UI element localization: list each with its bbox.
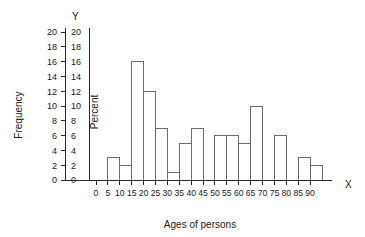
histogram-bar bbox=[191, 128, 203, 180]
histogram-bar bbox=[132, 62, 144, 180]
frequency-tick-label: 0 bbox=[52, 175, 57, 185]
frequency-tick-label: 4 bbox=[52, 146, 57, 156]
x-tick-label: 60 bbox=[234, 188, 244, 198]
x-tick-label: 90 bbox=[305, 188, 315, 198]
frequency-tick-label: 2 bbox=[52, 161, 57, 171]
percent-axis-title: Percent bbox=[89, 95, 100, 130]
y-axis-letter: Y bbox=[72, 11, 79, 22]
histogram-bar bbox=[120, 165, 132, 180]
frequency-tick-label: 6 bbox=[52, 131, 57, 141]
percent-tick-label: 16 bbox=[71, 57, 81, 67]
histogram-bar bbox=[227, 136, 239, 180]
histogram-bar bbox=[167, 173, 179, 180]
x-tick-label: 80 bbox=[282, 188, 292, 198]
x-tick-label: 15 bbox=[127, 188, 137, 198]
percent-tick-label: 20 bbox=[71, 27, 81, 37]
frequency-tick-label: 18 bbox=[47, 42, 57, 52]
x-tick-label: 55 bbox=[222, 188, 232, 198]
x-tick-label: 85 bbox=[293, 188, 303, 198]
x-tick-label: 10 bbox=[115, 188, 125, 198]
chart-canvas: 02468101214161820 02468101214161820 0510… bbox=[0, 0, 365, 237]
frequency-tick-label: 12 bbox=[47, 87, 57, 97]
histogram-bars bbox=[108, 62, 322, 180]
frequency-tick-label: 14 bbox=[47, 72, 57, 82]
histogram-bar bbox=[108, 158, 120, 180]
histogram-bar bbox=[251, 106, 263, 180]
x-tick-label: 40 bbox=[186, 188, 196, 198]
x-tick-label: 75 bbox=[270, 188, 280, 198]
x-tick-label: 50 bbox=[210, 188, 220, 198]
y-axis-title: Frequency bbox=[13, 91, 24, 138]
percent-tick-label: 10 bbox=[71, 101, 81, 111]
histogram-bar bbox=[144, 91, 156, 180]
frequency-tick-label: 16 bbox=[47, 57, 57, 67]
x-axis-title: Ages of persons bbox=[164, 219, 236, 230]
x-tick-label: 70 bbox=[258, 188, 268, 198]
x-axis bbox=[65, 180, 332, 185]
percent-axis-tick-labels: 02468101214161820 bbox=[71, 27, 81, 185]
frequency-tick-label: 20 bbox=[47, 27, 57, 37]
x-tick-label: 35 bbox=[174, 188, 184, 198]
percent-tick-label: 12 bbox=[71, 87, 81, 97]
histogram-bar bbox=[179, 143, 191, 180]
percent-tick-label: 8 bbox=[71, 116, 76, 126]
x-tick-label: 65 bbox=[246, 188, 256, 198]
percent-tick-label: 6 bbox=[71, 131, 76, 141]
percent-tick-label: 18 bbox=[71, 42, 81, 52]
histogram-bar bbox=[155, 128, 167, 180]
percent-tick-label: 14 bbox=[71, 72, 81, 82]
histogram-bar bbox=[310, 165, 322, 180]
left-axis bbox=[61, 28, 65, 180]
x-tick-label: 20 bbox=[139, 188, 149, 198]
histogram-bar bbox=[239, 143, 251, 180]
percent-tick-label: 4 bbox=[71, 146, 76, 156]
x-tick-label: 30 bbox=[163, 188, 173, 198]
x-tick-label: 25 bbox=[151, 188, 161, 198]
x-tick-label: 5 bbox=[106, 188, 111, 198]
histogram-chart: 02468101214161820 02468101214161820 0510… bbox=[0, 0, 365, 237]
frequency-tick-label: 10 bbox=[47, 101, 57, 111]
histogram-bar bbox=[298, 158, 310, 180]
histogram-bar bbox=[215, 136, 227, 180]
x-tick-label: 0 bbox=[94, 188, 99, 198]
x-axis-tick-labels: 051015202530354045505560657075808590 bbox=[94, 188, 315, 198]
percent-tick-label: 2 bbox=[71, 161, 76, 171]
x-axis-letter: X bbox=[345, 179, 352, 190]
left-axis-tick-labels: 02468101214161820 bbox=[47, 27, 57, 185]
x-tick-label: 45 bbox=[198, 188, 208, 198]
frequency-tick-label: 8 bbox=[52, 116, 57, 126]
histogram-bar bbox=[274, 136, 286, 180]
